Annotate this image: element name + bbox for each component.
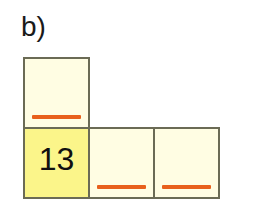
blank-answer-line (32, 115, 81, 119)
blank-answer-line (97, 185, 146, 189)
grid-cell-blank[interactable] (153, 127, 220, 199)
grid-spacer (155, 57, 222, 129)
worksheet-figure: b) 13 (0, 0, 264, 221)
grid-cell-value[interactable]: 13 (23, 127, 90, 199)
grid-cell-blank[interactable] (23, 57, 90, 129)
grid-cell-blank[interactable] (88, 127, 155, 199)
grid-row-top (23, 57, 222, 129)
cell-value: 13 (39, 142, 75, 176)
cell-grid: 13 (23, 57, 222, 199)
blank-answer-line (162, 185, 211, 189)
grid-row-bottom: 13 (23, 127, 222, 199)
part-label: b) (21, 11, 46, 43)
grid-spacer (88, 57, 155, 129)
